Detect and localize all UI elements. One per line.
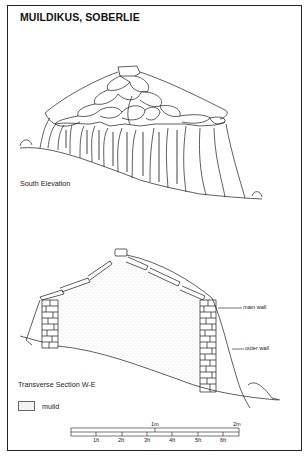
scale-label-2m: 2m [233, 421, 241, 427]
scale-label-4ft: 4ft [169, 437, 175, 443]
scale-label-1m: 1m [151, 421, 159, 427]
scale-label-3ft: 3ft [144, 437, 150, 443]
scale-label-6ft: 6ft [220, 437, 226, 443]
scale-bar [0, 0, 306, 459]
scale-label-1ft: 1ft [93, 437, 99, 443]
scale-label-2ft: 2ft [118, 437, 124, 443]
scale-label-5ft: 5ft [195, 437, 201, 443]
